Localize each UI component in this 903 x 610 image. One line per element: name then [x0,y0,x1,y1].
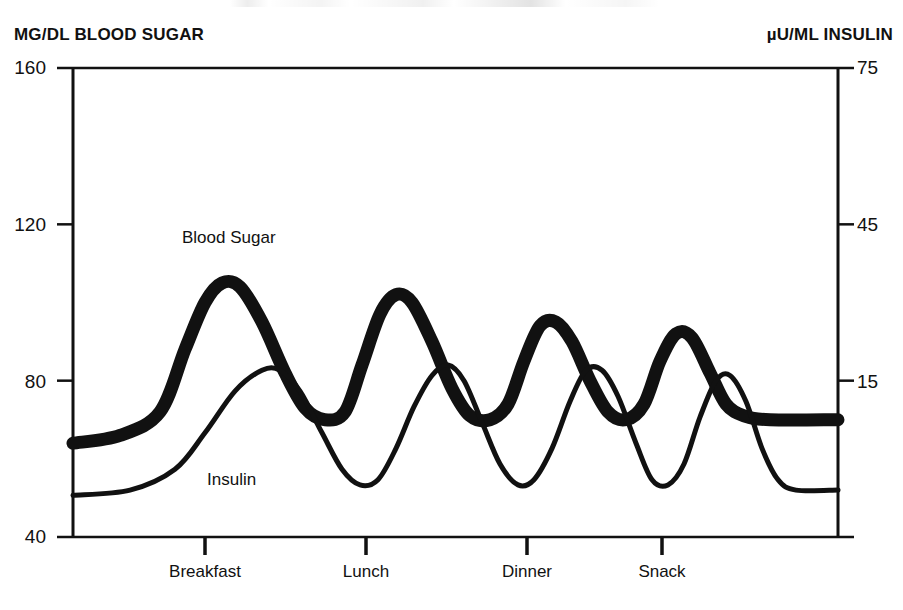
plot-area [0,0,903,610]
axes-group [57,68,854,555]
blood-sugar-insulin-chart: MG/DL BLOOD SUGAR µU/ML INSULIN 160 120 … [0,0,903,610]
series-path-blood-sugar [73,281,838,443]
tick-marks [57,68,854,555]
